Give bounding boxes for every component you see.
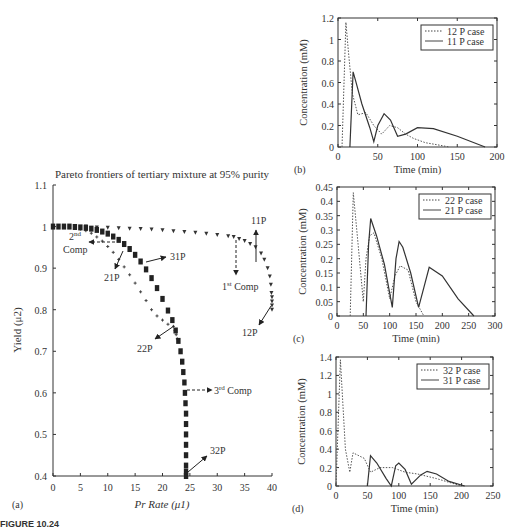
panel-c-concentration-chart: 00.050.10.150.20.250.30.350.40.450501001… [293, 182, 503, 345]
y-tick-label: 0.4 [322, 99, 335, 110]
y-tick-label: 1.2 [320, 370, 333, 381]
y-tick-label: 1.1 [35, 180, 48, 191]
figure: Pareto frontiers of tertiary mixture at … [0, 0, 518, 529]
x-tick-label: 0 [335, 320, 340, 331]
legend-entry: 31 P case [443, 375, 481, 386]
label-2nd-comp: 2nd [69, 230, 82, 242]
series-line [350, 72, 485, 147]
y-tick-label: 0.3 [321, 225, 334, 236]
y-tick-label: 0.4 [321, 196, 334, 207]
y-tick-label: 0.2 [322, 121, 335, 132]
x-tick-label: 250 [486, 490, 501, 501]
y-tick-label: 0.8 [322, 56, 335, 67]
panel-b-concentration-chart: 00.20.40.60.811.2050100150200Concentrati… [294, 13, 505, 176]
x-axis-label: Pr Rate (μ1) [133, 498, 189, 511]
x-tick-label: 10 [103, 482, 113, 493]
x-tick-label: 50 [358, 320, 368, 331]
x-tick-label: 200 [435, 320, 450, 331]
x-tick-label: 200 [490, 151, 505, 162]
x-axis-label: Time (min) [394, 164, 442, 176]
y-tick-label: 0.5 [35, 429, 48, 440]
x-tick-label: 25 [185, 482, 195, 493]
label-21p: 21P [104, 272, 120, 283]
x-tick-label: 0 [51, 482, 56, 493]
y-tick-label: 0.05 [316, 297, 334, 308]
x-tick-label: 150 [450, 151, 465, 162]
x-tick-label: 20 [158, 482, 168, 493]
figure-caption: FIGURE 10.24 [0, 519, 59, 529]
y-tick-label: 0.6 [35, 388, 48, 399]
y-tick-label: 0.6 [322, 78, 335, 89]
x-tick-label: 100 [410, 151, 425, 162]
y-tick-label: 1.4 [320, 352, 333, 363]
label-32p: 32P [210, 445, 226, 456]
x-tick-label: 50 [362, 490, 372, 501]
x-tick-label: 100 [391, 490, 406, 501]
x-tick-label: 0 [334, 490, 339, 501]
panel-letter: (c) [293, 333, 304, 345]
x-axis-label: Time (min) [391, 503, 439, 515]
x-tick-label: 100 [382, 320, 397, 331]
y-tick-label: 0.4 [35, 471, 48, 482]
y-tick-label: 0.25 [316, 239, 334, 250]
y-tick-label: 1.2 [322, 13, 335, 24]
y-tick-label: 0.9 [35, 263, 48, 274]
panel-d-concentration-chart: 00.20.40.60.811.21.4050100150200250Conce… [292, 352, 501, 515]
y-tick-label: 0 [327, 481, 332, 492]
x-tick-label: 0 [336, 151, 341, 162]
legend: 22 P case21 P case [419, 194, 491, 219]
legend: 12 P case11 P case [421, 25, 493, 50]
y-tick-label: 0.15 [316, 268, 334, 279]
x-tick-label: 50 [373, 151, 383, 162]
label-2nd-comp-word: Comp [63, 244, 87, 255]
y-axis-label: Concentration (mM) [298, 39, 310, 126]
x-tick-label: 150 [423, 490, 438, 501]
y-tick-label: 1 [329, 35, 334, 46]
y-tick-label: 0 [328, 311, 333, 322]
pareto-series [51, 224, 274, 479]
y-axis-label: Yield (μ2) [11, 307, 24, 353]
legend-entry: 21 P case [445, 205, 483, 216]
x-tick-label: 30 [212, 482, 222, 493]
y-tick-label: 1 [327, 389, 332, 400]
x-tick-label: 200 [454, 490, 469, 501]
label-22p: 22P [137, 343, 153, 354]
label-31p: 31P [170, 251, 186, 262]
panel-letter: (b) [294, 164, 306, 176]
y-axis-label: Concentration (mM) [297, 208, 309, 295]
series-line [367, 456, 464, 486]
x-tick-label: 150 [409, 320, 424, 331]
panel-a-letter: (a) [12, 499, 23, 511]
y-tick-label: 0.4 [320, 444, 333, 455]
panel-letter: (d) [292, 503, 304, 515]
y-tick-label: 0.45 [316, 182, 334, 193]
x-tick-label: 40 [267, 482, 277, 493]
panel-a-title: Pareto frontiers of tertiary mixture at … [55, 168, 270, 180]
y-tick-label: 0.2 [320, 463, 333, 474]
y-axis-label: Concentration (mM) [296, 378, 308, 465]
series-3rd-comp [51, 224, 188, 479]
y-tick-label: 0.35 [316, 211, 334, 222]
x-tick-label: 15 [130, 482, 140, 493]
series-line [366, 219, 474, 317]
y-tick-label: 0.2 [321, 254, 334, 265]
y-tick-label: 0 [329, 142, 334, 153]
label-1st-comp: 1st Comp [222, 280, 259, 292]
y-tick-label: 0.1 [321, 282, 334, 293]
y-tick-label: 0.6 [320, 426, 333, 437]
legend: 32 P case31 P case [417, 364, 489, 389]
x-tick-label: 5 [78, 482, 83, 493]
y-tick-label: 0.7 [35, 346, 48, 357]
label-3rd-comp: 3rd Comp [214, 384, 252, 396]
x-tick-label: 35 [240, 482, 250, 493]
x-tick-label: 300 [488, 320, 503, 331]
label-12p: 12P [242, 327, 258, 338]
series-line [350, 193, 424, 316]
y-tick-label: 0.8 [320, 407, 333, 418]
y-tick-label: 1 [42, 222, 47, 233]
label-11p: 11P [251, 215, 267, 226]
legend-entry: 11 P case [447, 36, 485, 47]
x-axis-label: Time (min) [392, 333, 440, 345]
x-tick-label: 250 [461, 320, 476, 331]
y-tick-label: 0.8 [35, 305, 48, 316]
